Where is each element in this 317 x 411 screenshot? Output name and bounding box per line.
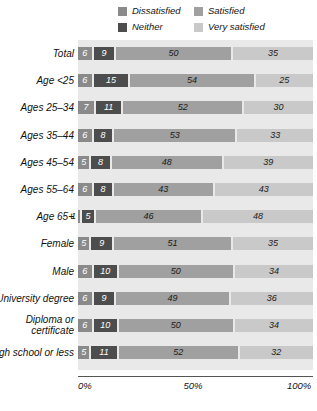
bar-segment-very_satisfied[interactable]: 30 [244, 101, 313, 114]
bar-segment-dissatisfied[interactable]: 6 [78, 74, 92, 87]
bar-segment-value: 25 [279, 76, 289, 85]
bar-segment-value: 33 [270, 131, 280, 140]
bar-segment-very_satisfied[interactable]: 35 [233, 47, 313, 60]
bar-segment-dissatisfied[interactable]: 6 [78, 319, 92, 332]
legend-item[interactable]: Dissatisfied [118, 3, 194, 19]
bar-row: 54648 [78, 210, 313, 223]
legend-item[interactable]: Satisfied [194, 3, 304, 19]
bar-segment-value: 35 [268, 239, 278, 248]
bar-segment-neither[interactable]: 9 [94, 47, 115, 60]
row-label-age-65+: Age 65+ [0, 211, 74, 222]
bar-segment-neither[interactable]: 10 [94, 265, 117, 278]
bar-segment-dissatisfied[interactable]: 7 [78, 101, 94, 114]
bar-row: 5115232 [78, 346, 313, 359]
bar-segment-satisfied[interactable]: 54 [130, 74, 254, 87]
row-label-university-degree: University degree [0, 293, 74, 304]
bar-segment-value: 54 [187, 76, 197, 85]
bar-segment-dissatisfied[interactable]: 5 [78, 156, 89, 169]
bar-segment-value: 5 [81, 348, 86, 357]
bar-segment-very_satisfied[interactable]: 36 [231, 292, 313, 305]
bar-segment-very_satisfied[interactable]: 35 [233, 237, 313, 250]
bar-segment-satisfied[interactable]: 48 [112, 156, 222, 169]
legend-swatch-very-satisfied [194, 23, 203, 32]
row-label-male: Male [0, 266, 74, 277]
bar-segment-value: 30 [274, 103, 284, 112]
legend-swatch-neither [118, 23, 127, 32]
legend-swatch-satisfied [194, 7, 203, 16]
bar-segment-very_satisfied[interactable]: 25 [256, 74, 313, 87]
bar-segment-neither[interactable]: 5 [82, 210, 93, 223]
bar-segment-value: 49 [167, 294, 177, 303]
bar-segment-satisfied[interactable]: 50 [119, 265, 234, 278]
row-label-female: Female [0, 238, 74, 249]
x-axis-tick-label: 0% [78, 381, 92, 391]
row-label-ages-2534: Ages 25–34 [0, 102, 74, 113]
row-label-ages-4554: Ages 45–54 [0, 157, 74, 168]
legend-item-label: Very satisfied [208, 22, 265, 32]
bar-segment-neither[interactable]: 11 [96, 101, 121, 114]
bar-segment-value: 8 [100, 185, 105, 194]
bar-segment-value: 10 [100, 321, 110, 330]
bar-segment-very_satisfied[interactable]: 48 [203, 210, 313, 223]
bar-segment-value: 50 [171, 267, 181, 276]
bar-segment-value: 15 [106, 76, 116, 85]
bar-segment-very_satisfied[interactable]: 33 [237, 129, 313, 142]
bar-segment-satisfied[interactable]: 50 [119, 319, 234, 332]
bar-segment-satisfied[interactable]: 52 [123, 101, 242, 114]
x-axis-tick-label: 50% [184, 381, 203, 391]
bar-segment-dissatisfied[interactable]: 5 [78, 237, 89, 250]
row-label-age-<25: Age <25 [0, 75, 74, 86]
bar-segment-neither[interactable]: 8 [94, 129, 112, 142]
bar-segment-neither[interactable]: 10 [94, 319, 117, 332]
bar-segment-very_satisfied[interactable]: 32 [240, 346, 313, 359]
bar-segment-satisfied[interactable]: 43 [114, 183, 212, 196]
bar-segment-dissatisfied[interactable]: 6 [78, 265, 92, 278]
bar-segment-value: 32 [271, 348, 281, 357]
bar-segment-value: 9 [102, 294, 107, 303]
bar-segment-very_satisfied[interactable]: 43 [215, 183, 313, 196]
bar-segment-value: 34 [269, 321, 279, 330]
bar-segment-satisfied[interactable]: 50 [116, 47, 231, 60]
bar-segment-value: 36 [267, 294, 277, 303]
bar-row: 684343 [78, 183, 313, 196]
bar-segment-satisfied[interactable]: 53 [114, 129, 235, 142]
bar-segment-value: 6 [82, 267, 87, 276]
bar-segment-value: 43 [259, 185, 269, 194]
chart-legend: DissatisfiedSatisfiedNeitherVery satisfi… [118, 3, 304, 35]
bar-segment-satisfied[interactable]: 49 [116, 292, 228, 305]
bar-segment-dissatisfied[interactable]: 6 [78, 129, 92, 142]
bar-segment-very_satisfied[interactable]: 34 [235, 319, 313, 332]
bar-segment-value: 6 [82, 294, 87, 303]
bar-segment-very_satisfied[interactable]: 39 [224, 156, 313, 169]
bar-segment-satisfied[interactable]: 51 [114, 237, 231, 250]
bar-segment-value: 10 [100, 267, 110, 276]
bar-segment-dissatisfied[interactable]: 6 [78, 183, 92, 196]
bar-segment-value: 50 [171, 321, 181, 330]
bar-segment-value: 34 [269, 267, 279, 276]
bar-segment-value: 6 [82, 76, 87, 85]
bar-row: 695035 [78, 47, 313, 60]
bar-segment-value: 52 [178, 103, 188, 112]
legend-item-label: Neither [132, 22, 163, 32]
x-axis-tick-label: 100% [287, 381, 311, 391]
bar-segment-very_satisfied[interactable]: 34 [235, 265, 313, 278]
bar-segment-satisfied[interactable]: 52 [119, 346, 238, 359]
bar-segment-neither[interactable]: 8 [94, 183, 112, 196]
bar-segment-dissatisfied[interactable]: 6 [78, 292, 92, 305]
bar-segment-neither[interactable]: 9 [94, 292, 115, 305]
bar-segment-value: 8 [100, 131, 105, 140]
bar-segment-value: 48 [162, 158, 172, 167]
bar-segment-neither[interactable]: 15 [94, 74, 128, 87]
bar-segment-satisfied[interactable]: 46 [96, 210, 201, 223]
row-label-ages-5564: Ages 55–64 [0, 184, 74, 195]
bar-segment-dissatisfied[interactable]: 6 [78, 47, 92, 60]
bar-segment-neither[interactable]: 9 [91, 237, 112, 250]
bar-segment-neither[interactable]: 11 [91, 346, 116, 359]
legend-item[interactable]: Neither [118, 19, 194, 35]
bar-row: 694936 [78, 292, 313, 305]
legend-item-label: Satisfied [208, 6, 244, 16]
bar-segment-neither[interactable]: 8 [91, 156, 109, 169]
legend-item[interactable]: Very satisfied [194, 19, 304, 35]
row-label-total: Total [0, 48, 74, 59]
bar-segment-dissatisfied[interactable]: 5 [78, 346, 89, 359]
